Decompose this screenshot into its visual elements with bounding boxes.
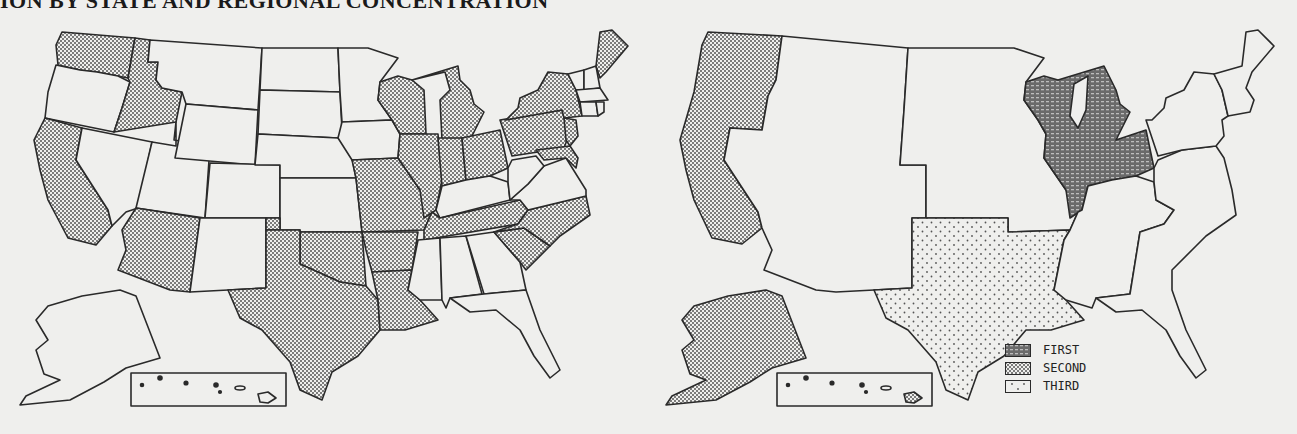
state-AR — [362, 232, 418, 272]
state-HI — [258, 392, 276, 403]
state-ME — [596, 30, 628, 78]
state-ND — [260, 48, 340, 92]
legend-label-third: THIRD — [1043, 379, 1079, 393]
state-KS — [280, 178, 362, 232]
state-AZ — [118, 208, 200, 292]
state-CO — [205, 163, 280, 218]
legend-label-first: FIRST — [1043, 343, 1079, 357]
state-WY — [175, 104, 258, 165]
legend-swatch-second — [1005, 362, 1031, 375]
state-SD — [258, 90, 342, 138]
state-MA — [576, 88, 608, 102]
left-map-by-state — [0, 0, 650, 434]
right-map-regional — [646, 0, 1297, 434]
region-middle-atlantic — [1146, 72, 1228, 156]
state-RI — [596, 102, 604, 116]
legend: FIRST SECOND THIRD — [1005, 341, 1086, 395]
legend-item-second: SECOND — [1005, 359, 1086, 377]
legend-label-second: SECOND — [1043, 361, 1086, 375]
state-OH — [462, 130, 508, 180]
state-CT — [580, 102, 598, 116]
state-AK — [20, 290, 160, 405]
state-IN — [438, 138, 466, 186]
legend-swatch-third — [1005, 380, 1031, 393]
region-pacific-hawaii — [904, 392, 922, 403]
legend-item-first: FIRST — [1005, 341, 1086, 359]
legend-swatch-first — [1005, 344, 1031, 357]
region-pacific-alaska — [666, 290, 806, 405]
state-IA — [338, 120, 400, 160]
state-FL — [450, 290, 560, 378]
state-NM — [190, 218, 266, 292]
legend-item-third: THIRD — [1005, 377, 1086, 395]
